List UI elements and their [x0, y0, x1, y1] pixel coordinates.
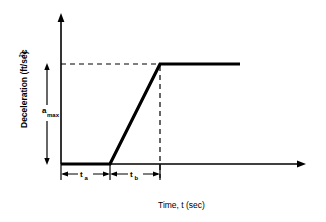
tb-label-subscript: b	[135, 175, 139, 181]
deceleration-time-figure: a max t a t b Deceleration (ft/sec 2 )	[0, 0, 326, 222]
x-tick-group	[61, 164, 160, 180]
ta-label: t	[80, 170, 83, 179]
ta-arrowhead-right-icon	[103, 172, 110, 177]
deceleration-curve	[61, 64, 240, 164]
amax-arrowhead-up-icon	[44, 63, 49, 70]
figure-page: a max t a t b Deceleration (ft/sec 2 )	[0, 0, 326, 222]
y-axis-title-group: Deceleration (ft/sec 2 )	[18, 49, 29, 128]
tb-arrowhead-left-icon	[110, 172, 117, 177]
axes-group	[58, 13, 306, 167]
amax-arrowhead-down-icon	[44, 158, 49, 165]
y-axis-title: Deceleration (ft/sec	[19, 49, 29, 128]
y-axis-title-close-paren: )	[19, 51, 29, 54]
tb-dimension-group: t b	[110, 167, 160, 181]
deceleration-curve-group	[61, 64, 240, 164]
ta-dimension-group: t a	[61, 167, 110, 181]
x-axis-arrowhead-icon	[297, 161, 306, 168]
amax-label-subscript: max	[47, 112, 60, 118]
amax-dimension-group: a max	[37, 63, 60, 165]
ta-arrowhead-left-icon	[61, 172, 68, 177]
tb-label: t	[130, 170, 133, 179]
tb-arrowhead-right-icon	[153, 172, 160, 177]
y-axis-arrowhead-icon	[58, 13, 65, 22]
x-axis-title-group: Time, t (sec)	[158, 200, 205, 210]
x-axis-title: Time, t (sec)	[158, 200, 205, 210]
